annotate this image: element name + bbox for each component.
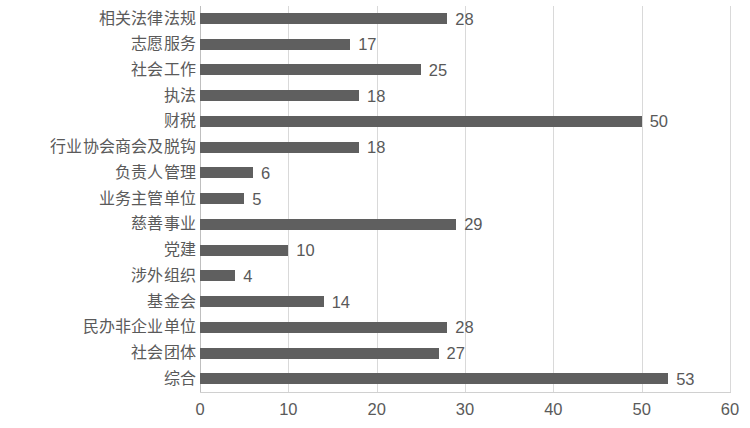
bar-row: 18 (200, 83, 730, 109)
bar-value-label: 4 (243, 266, 252, 286)
bar-row: 50 (200, 109, 730, 135)
bar (200, 219, 456, 230)
category-label: 志愿服务 (6, 34, 196, 54)
bar-value-label: 17 (358, 34, 376, 54)
bar (200, 270, 235, 281)
x-tick-label-20: 20 (367, 398, 385, 420)
bar-row: 18 (200, 135, 730, 161)
gridline-60 (730, 6, 731, 392)
bar (200, 373, 668, 384)
bar-value-label: 6 (261, 163, 270, 183)
bar-value-label: 5 (252, 189, 261, 209)
plot-area: 281725185018652910414282753 (200, 6, 730, 392)
bar-row: 4 (200, 263, 730, 289)
bar-value-label: 18 (367, 86, 385, 106)
bar (200, 64, 421, 75)
x-tick-label-10: 10 (279, 398, 297, 420)
bar-chart: 相关法律法规志愿服务社会工作执法财税行业协会商会及脱钩负责人管理业务主管单位慈善… (0, 0, 750, 428)
bar-row: 27 (200, 341, 730, 367)
bar (200, 322, 447, 333)
bar-row: 5 (200, 186, 730, 212)
bar (200, 193, 244, 204)
x-tick-label-30: 30 (456, 398, 474, 420)
bar-value-label: 10 (296, 240, 314, 260)
category-label: 业务主管单位 (6, 189, 196, 209)
bar (200, 245, 288, 256)
bar-row: 10 (200, 238, 730, 264)
x-tick-label-50: 50 (632, 398, 650, 420)
bar-value-label: 14 (332, 292, 350, 312)
bar (200, 296, 324, 307)
category-label: 执法 (6, 86, 196, 106)
x-tick-label-40: 40 (544, 398, 562, 420)
category-label: 综合 (6, 369, 196, 389)
bar-row: 29 (200, 212, 730, 238)
bar (200, 116, 642, 127)
bar-value-label: 25 (429, 60, 447, 80)
category-label: 负责人管理 (6, 163, 196, 183)
bar-row: 28 (200, 315, 730, 341)
bar (200, 167, 253, 178)
category-label: 相关法律法规 (6, 9, 196, 29)
bar-row: 28 (200, 6, 730, 32)
bar-row: 14 (200, 289, 730, 315)
bar-row: 17 (200, 32, 730, 58)
bar-row: 25 (200, 57, 730, 83)
category-label: 基金会 (6, 292, 196, 312)
category-label: 涉外组织 (6, 266, 196, 286)
x-tick-label-0: 0 (195, 398, 204, 420)
x-axis-tick-labels: 0102030405060 (0, 398, 750, 428)
bar-value-label: 28 (455, 317, 473, 337)
category-label: 行业协会商会及脱钩 (6, 137, 196, 157)
bar-value-label: 29 (464, 214, 482, 234)
bar-value-label: 27 (447, 343, 465, 363)
category-label: 社会团体 (6, 343, 196, 363)
bar-value-label: 53 (676, 369, 694, 389)
bar (200, 348, 439, 359)
bar-row: 53 (200, 366, 730, 392)
category-label: 社会工作 (6, 60, 196, 80)
x-tick-label-60: 60 (721, 398, 739, 420)
category-label: 慈善事业 (6, 214, 196, 234)
category-label: 党建 (6, 240, 196, 260)
bar-value-label: 50 (650, 111, 668, 131)
bar (200, 90, 359, 101)
category-label: 财税 (6, 111, 196, 131)
bar (200, 142, 359, 153)
bar-row: 6 (200, 160, 730, 186)
x-axis-line (200, 392, 731, 393)
bar-value-label: 28 (455, 9, 473, 29)
category-label: 民办非企业单位 (6, 317, 196, 337)
bar (200, 13, 447, 24)
bar (200, 39, 350, 50)
bar-value-label: 18 (367, 137, 385, 157)
y-axis-category-labels: 相关法律法规志愿服务社会工作执法财税行业协会商会及脱钩负责人管理业务主管单位慈善… (0, 6, 196, 392)
